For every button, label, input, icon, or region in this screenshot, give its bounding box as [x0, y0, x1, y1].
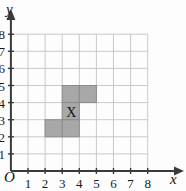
x-tick-label: 1	[22, 177, 34, 190]
shaded-cell	[62, 86, 79, 103]
x-tick-label: 2	[39, 177, 51, 190]
grid-canvas	[0, 0, 186, 191]
y-tick-label: 4	[0, 97, 5, 110]
x-tick-label: 8	[142, 177, 154, 190]
y-tick-label: 5	[0, 80, 5, 93]
shaded-cell	[45, 120, 62, 137]
shaded-cell	[62, 120, 79, 137]
x-tick-label: 6	[108, 177, 120, 190]
y-tick-label: 3	[0, 114, 5, 127]
x-tick-label: 5	[90, 177, 102, 190]
y-tick-label: 8	[0, 28, 5, 41]
y-tick-label: 7	[0, 45, 5, 58]
y-tick-label: 1	[0, 148, 5, 161]
shaded-cell	[79, 86, 96, 103]
x-axis-label: x	[170, 172, 177, 187]
shape-marker-label: X	[66, 106, 76, 120]
x-tick-label: 4	[73, 177, 85, 190]
x-tick-label: 3	[56, 177, 68, 190]
y-axis-label: y	[6, 2, 13, 17]
y-tick-label: 2	[0, 131, 5, 144]
x-tick-label: 7	[125, 177, 137, 190]
y-tick-label: 6	[0, 62, 5, 75]
origin-label: O	[4, 170, 15, 185]
coordinate-grid-figure: y x O 12345678 12345678 X	[0, 0, 186, 191]
